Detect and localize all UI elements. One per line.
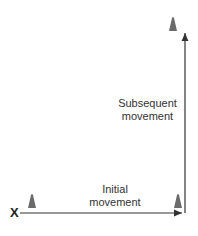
- cone-icon: [169, 17, 177, 31]
- subsequent-label-line1: Subsequent: [110, 97, 185, 110]
- subsequent-label-line2: movement: [110, 110, 185, 123]
- initial-movement-label: Initial movement: [80, 183, 150, 209]
- subsequent-movement-label: Subsequent movement: [110, 97, 185, 123]
- initial-label-line2: movement: [80, 196, 150, 209]
- initial-label-line1: Initial: [80, 183, 150, 196]
- cone-icon: [174, 194, 182, 208]
- cone-icon: [28, 194, 36, 208]
- start-marker: X: [10, 205, 19, 220]
